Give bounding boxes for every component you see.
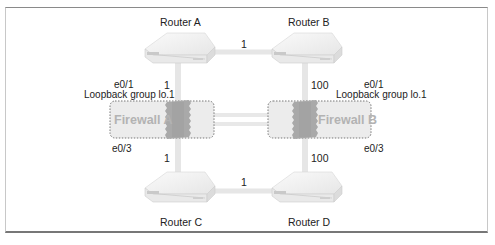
cost-label-c-d: 1 xyxy=(241,176,247,188)
cost-label-fwa-c: 1 xyxy=(164,152,170,164)
router-d[interactable]: Router D xyxy=(272,172,342,228)
router-c-label: Router C xyxy=(160,216,202,228)
firewall-a-bottom-interface: e0/3 xyxy=(112,143,132,154)
router-b[interactable]: Router B xyxy=(272,16,342,63)
router-d-icon xyxy=(272,172,342,202)
router-a-label: Router A xyxy=(160,16,201,28)
router-b-icon xyxy=(272,33,342,63)
router-a[interactable]: Router A xyxy=(145,16,215,63)
router-a-icon xyxy=(145,33,215,63)
firewall-b-loopback-label: Loopback group lo.1 xyxy=(336,89,427,100)
firewall-a-label: Firewall A xyxy=(114,113,173,127)
firewall-a-loopback-label: Loopback group lo.1 xyxy=(84,89,175,100)
firewall-a[interactable]: Firewall A xyxy=(110,100,214,139)
cost-label-a-b: 1 xyxy=(241,38,247,50)
firewall-b-bottom-interface: e0/3 xyxy=(364,143,384,154)
router-d-label: Router D xyxy=(288,216,330,228)
network-diagram: Firewall A Firewall B Router A Router B … xyxy=(0,0,495,245)
cost-label-fwb-d: 100 xyxy=(311,152,329,164)
router-c-icon xyxy=(145,172,215,202)
router-b-label: Router B xyxy=(288,16,329,28)
firewall-b[interactable]: Firewall B xyxy=(268,100,377,139)
cost-label-b-fwb: 100 xyxy=(311,79,329,91)
router-c[interactable]: Router C xyxy=(145,172,215,228)
firewall-b-label: Firewall B xyxy=(318,113,377,127)
